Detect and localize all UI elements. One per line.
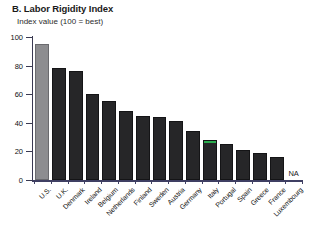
bar (186, 131, 200, 180)
bar (119, 111, 133, 180)
chart-title: B. Labor Rigidity Index (12, 3, 113, 14)
x-axis-tick (235, 180, 236, 184)
y-axis-tick (26, 66, 33, 67)
bar (270, 157, 284, 180)
chart-subtitle: Index value (100 = best) (17, 17, 103, 26)
x-axis-tick (34, 180, 35, 184)
bar-highlight-cap (204, 141, 216, 144)
y-axis-tick-label: 100 (0, 33, 23, 42)
bar-slot (218, 37, 235, 180)
bar-slot (34, 37, 51, 180)
x-axis-tick (302, 180, 303, 184)
x-axis-tick (168, 180, 169, 184)
bar (86, 94, 100, 180)
bar (35, 44, 49, 180)
x-axis-tick (118, 180, 119, 184)
y-axis-line (32, 36, 33, 181)
bar-slot: NA (285, 37, 302, 180)
y-axis-tick (26, 151, 33, 152)
x-axis-labels: U.S.U.K.DenmarkIrelandBelgiumNetherlands… (34, 186, 304, 232)
bar (169, 121, 183, 180)
bar-slot (151, 37, 168, 180)
bar-slot (68, 37, 85, 180)
y-axis-tick (26, 94, 33, 95)
bar-slot (168, 37, 185, 180)
x-axis-tick (101, 180, 102, 184)
bar-slot (185, 37, 202, 180)
bar-slot (252, 37, 269, 180)
bar-slot (51, 37, 68, 180)
bar (52, 68, 66, 180)
bar-slot (235, 37, 252, 180)
bar (253, 153, 267, 180)
bar-slot (84, 37, 101, 180)
bar (203, 140, 217, 180)
x-axis-tick (185, 180, 186, 184)
bar-series: NA (34, 37, 302, 180)
y-axis-tick (26, 37, 33, 38)
y-axis-tick-label: 40 (0, 119, 23, 128)
x-axis-tick (285, 180, 286, 184)
bar-slot (101, 37, 118, 180)
bar (102, 101, 116, 180)
bar (236, 150, 250, 180)
bar (220, 144, 234, 180)
bar-slot (135, 37, 152, 180)
x-axis-tick (202, 180, 203, 184)
x-axis-tick (84, 180, 85, 184)
bar (69, 71, 83, 180)
x-axis-tick (218, 180, 219, 184)
bar-slot (202, 37, 219, 180)
x-axis-tick (269, 180, 270, 184)
x-axis-tick (135, 180, 136, 184)
y-axis-tick (26, 180, 33, 181)
x-axis-tick (252, 180, 253, 184)
y-axis-tick-label: 20 (0, 147, 23, 156)
x-axis-tick (151, 180, 152, 184)
x-axis-tick (51, 180, 52, 184)
y-axis-tick-label: 0 (0, 176, 23, 185)
bar (153, 117, 167, 180)
bar-slot (269, 37, 286, 180)
y-axis-tick (26, 123, 33, 124)
bar (136, 116, 150, 180)
bar-slot (118, 37, 135, 180)
y-axis-tick-label: 80 (0, 62, 23, 71)
y-axis-tick-label: 60 (0, 90, 23, 99)
bar-na-label: NA (285, 169, 302, 178)
x-axis-tick (68, 180, 69, 184)
chart-figure: B. Labor Rigidity Index Index value (100… (0, 0, 310, 232)
